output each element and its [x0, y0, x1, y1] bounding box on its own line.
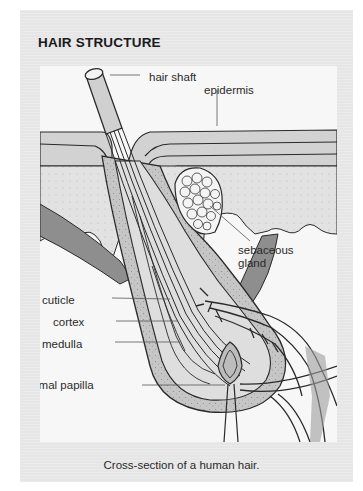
label-epidermis: epidermis — [204, 84, 254, 97]
figure-caption: Cross-section of a human hair. — [0, 459, 363, 471]
figure-title: HAIR STRUCTURE — [38, 35, 161, 50]
label-cuticle: cuticle — [42, 294, 75, 307]
label-dermal-papilla: dermal papilla — [40, 379, 94, 392]
label-sebaceous-gland-line1: sebaceous — [238, 244, 294, 257]
label-medulla: medulla — [42, 338, 82, 351]
label-hair-shaft: hair shaft — [149, 71, 196, 84]
label-cortex: cortex — [53, 316, 84, 329]
label-sebaceous-gland-line2: gland — [238, 257, 266, 270]
hair-diagram: hair shaft epidermis sebaceous gland cut… — [40, 66, 337, 442]
